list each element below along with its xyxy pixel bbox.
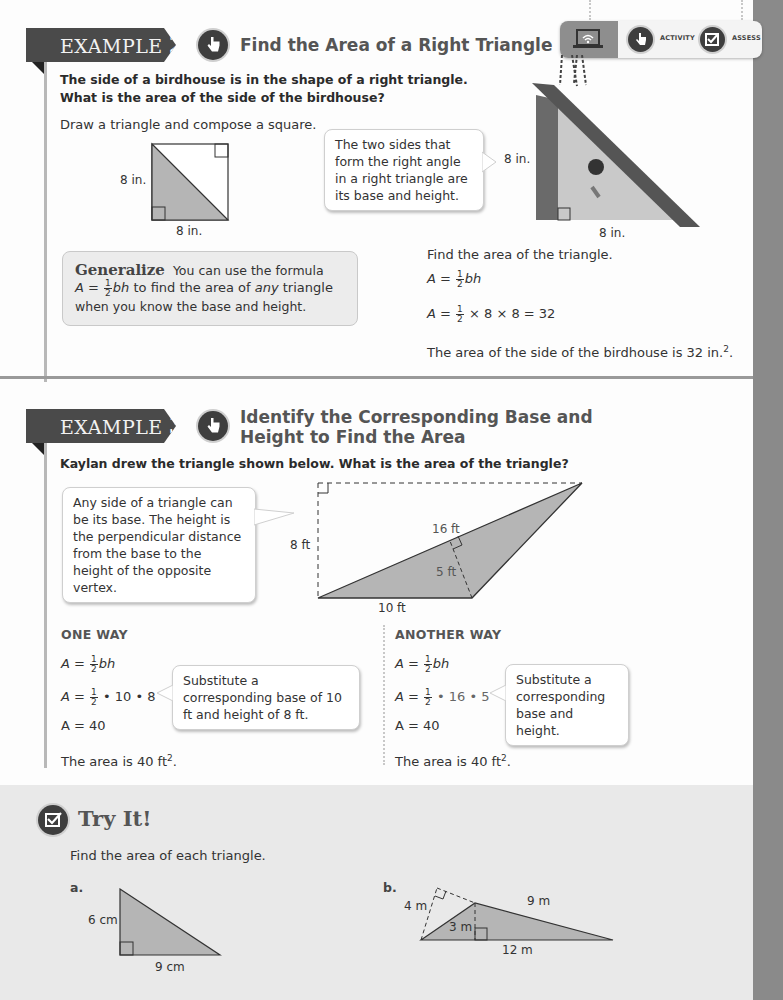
top-dotted-line xyxy=(741,0,743,20)
find-area-text: Find the area of the triangle. xyxy=(427,246,613,264)
tag-fold xyxy=(32,443,44,455)
try-it-instruction: Find the area of each triangle. xyxy=(70,847,266,865)
textbook-page: ACTIVITY ASSESS EXAMPLE2 Find the Area o… xyxy=(0,0,753,1000)
generalize-box: Generalize You can use the formula A = 1… xyxy=(62,251,358,326)
one-way-conclusion: The area is 40 ft2. xyxy=(61,749,177,771)
square-base-label: 8 in. xyxy=(176,224,202,238)
problem-a-height: 6 cm xyxy=(88,913,118,927)
one-way-substitution: A = 12 • 10 • 8 xyxy=(61,688,156,707)
obtuse-triangle-diagram xyxy=(310,478,590,603)
try-it-panel: Try It! Find the area of each triangle. … xyxy=(0,785,753,1000)
height-8ft-label: 8 ft xyxy=(290,538,310,552)
one-way-formula: A = 12bh xyxy=(61,655,115,674)
birdhouse-base-label: 8 in. xyxy=(599,226,625,240)
assess-label[interactable]: ASSESS xyxy=(732,34,761,42)
assess-check-icon[interactable] xyxy=(700,27,725,52)
one-way-callout: Substitute a corresponding base of 10 ft… xyxy=(172,665,360,730)
formula-line: A = 12bh xyxy=(427,270,481,289)
square-height-label: 8 in. xyxy=(120,173,146,187)
another-way-heading: ANOTHER WAY xyxy=(395,627,501,642)
callout-pointer xyxy=(482,150,496,174)
example-3-tag: EXAMPLE3 xyxy=(26,409,176,443)
problem-b-triangle xyxy=(415,880,615,950)
problem-b-label: b. xyxy=(383,880,397,895)
birdhouse-illustration xyxy=(530,55,700,230)
example-2-rule xyxy=(44,62,47,382)
example-2-question-line1: The side of a birdhouse is in the shape … xyxy=(60,71,468,89)
example-3-question: Kaylan drew the triangle shown below. Wh… xyxy=(60,455,569,473)
problem-b-height: 3 m xyxy=(449,920,472,934)
laptop-wifi-icon[interactable] xyxy=(560,21,618,58)
example-2-question-line2: What is the area of the side of the bird… xyxy=(60,89,385,107)
problem-a-base: 9 cm xyxy=(155,960,185,974)
example-3-rule xyxy=(44,443,47,768)
example-2-conclusion: The area of the side of the birdhouse is… xyxy=(427,340,733,362)
callout-pointer xyxy=(157,683,173,703)
activity-hand-icon[interactable] xyxy=(628,27,653,52)
height-5ft-label: 5 ft xyxy=(436,565,456,579)
example-2-instruction: Draw a triangle and compose a square. xyxy=(60,116,316,134)
top-dotted-line xyxy=(589,0,591,20)
example-3-title-line1: Identify the Corresponding Base and xyxy=(240,407,593,427)
base-height-callout: Any side of a triangle can be its base. … xyxy=(62,487,256,603)
ways-separator xyxy=(383,625,385,765)
try-it-title: Try It! xyxy=(78,806,151,831)
problem-a-triangle xyxy=(116,885,224,957)
activity-label[interactable]: ACTIVITY xyxy=(660,34,695,42)
page-edge-strip xyxy=(753,0,783,1000)
another-way-result: A = 40 xyxy=(395,718,440,733)
problem-b-slant-height: 4 m xyxy=(404,899,427,913)
calculation-line: A = 12 × 8 × 8 = 32 xyxy=(427,305,555,324)
problem-a-label: a. xyxy=(70,880,83,895)
one-way-result: A = 40 xyxy=(61,718,106,733)
digital-resources-toolbar: ACTIVITY ASSESS xyxy=(560,21,762,58)
birdhouse-height-label: 8 in. xyxy=(504,152,530,166)
right-angle-callout: The two sides that form the right angle … xyxy=(324,129,484,211)
tag-fold xyxy=(32,62,44,74)
callout-pointer xyxy=(254,505,296,529)
base-10ft-label: 10 ft xyxy=(378,601,406,615)
square-triangle-diagram xyxy=(148,140,232,224)
another-way-formula: A = 12bh xyxy=(395,655,449,674)
hand-pointer-icon[interactable] xyxy=(198,411,228,441)
section-divider xyxy=(0,376,753,379)
another-way-conclusion: The area is 40 ft2. xyxy=(395,749,511,771)
problem-b-base: 12 m xyxy=(502,943,533,957)
example-2-tag: EXAMPLE2 xyxy=(26,28,176,62)
problem-b-side: 9 m xyxy=(527,894,550,908)
hand-pointer-icon[interactable] xyxy=(198,30,228,60)
assess-check-icon[interactable] xyxy=(38,805,68,835)
one-way-heading: ONE WAY xyxy=(61,627,128,642)
generalize-label: Generalize xyxy=(75,261,165,279)
another-way-substitution: A = 12 • 16 • 5 xyxy=(395,688,490,707)
side-16ft-label: 16 ft xyxy=(432,522,460,536)
example-2-title: Find the Area of a Right Triangle xyxy=(240,35,552,55)
another-way-callout: Substitute a corresponding base and heig… xyxy=(505,664,629,746)
callout-pointer xyxy=(490,683,506,703)
example-3-title-line2: Height to Find the Area xyxy=(240,427,465,447)
